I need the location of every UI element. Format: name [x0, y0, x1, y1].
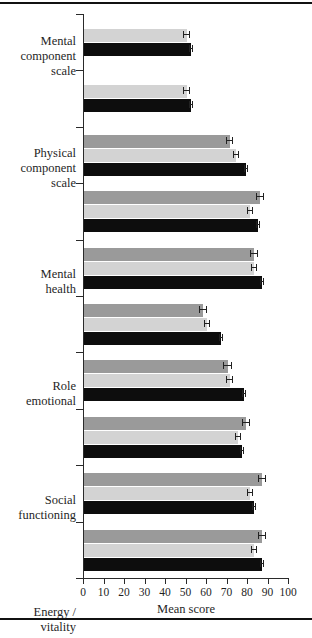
bar [84, 487, 250, 500]
bar-group: Physicalcomponentscale [0, 70, 312, 126]
bar [84, 99, 191, 112]
bar-group: Physicalfunctioning [0, 522, 312, 578]
error-bar [223, 365, 231, 366]
x-axis-tick [227, 578, 228, 584]
bar [84, 135, 230, 148]
error-bar [189, 104, 193, 105]
bar-group: Energy /vitality [0, 296, 312, 352]
bar-group: Socialfunctioning [0, 240, 312, 296]
bar [84, 388, 244, 401]
bar-group: Bodilypain [0, 409, 312, 465]
error-bar [233, 154, 239, 155]
bar [84, 205, 250, 218]
category-label-line: vitality [0, 620, 76, 635]
bar-group: Generalhealthperceptions [0, 352, 312, 408]
error-bar [251, 549, 257, 550]
bar-group: Rolephysical [0, 465, 312, 521]
bar [84, 248, 254, 261]
bar [84, 43, 191, 56]
error-bar [226, 140, 232, 141]
x-axis-tick-label: 100 [275, 586, 301, 599]
bar [84, 445, 242, 458]
error-bar [204, 323, 210, 324]
bar [84, 501, 254, 514]
bar-group: Roleemotional [0, 183, 312, 239]
bar [84, 318, 207, 331]
error-bar [235, 436, 241, 437]
error-bar [252, 506, 256, 507]
error-bar [240, 450, 244, 451]
bar [84, 262, 254, 275]
error-bar [244, 168, 248, 169]
category-label: Energy /vitality [0, 605, 76, 635]
error-bar [183, 90, 189, 91]
error-bar [242, 422, 250, 423]
bar [84, 149, 236, 162]
bar-group: Mentalcomponentscale [0, 14, 312, 70]
error-bar [189, 48, 193, 49]
error-bar [256, 196, 264, 197]
figure-sf36-mean-scores: Mean score MentalcomponentscalePhysicalc… [0, 0, 312, 638]
bar [84, 544, 254, 557]
bar [84, 530, 262, 543]
bar [84, 304, 203, 317]
category-label-line: component [0, 49, 76, 64]
error-bar [256, 224, 260, 225]
error-bar [226, 379, 232, 380]
error-bar [258, 535, 266, 536]
bar [84, 29, 187, 42]
x-axis-tick [124, 578, 125, 584]
x-axis-tick [247, 578, 248, 584]
x-axis-tick [145, 578, 146, 584]
x-axis-title: Mean score [83, 602, 289, 617]
bar [84, 473, 262, 486]
category-label-line: Energy / [0, 605, 76, 620]
error-bar [251, 267, 257, 268]
bar [84, 85, 187, 98]
x-axis-tick [186, 578, 187, 584]
x-axis-tick [268, 578, 269, 584]
x-axis-tick [83, 578, 84, 584]
x-axis-tick [165, 578, 166, 584]
error-bar [260, 281, 264, 282]
error-bar [260, 563, 264, 564]
x-axis-tick [206, 578, 207, 584]
error-bar [250, 253, 258, 254]
x-axis-tick [104, 578, 105, 584]
bar [84, 558, 262, 571]
chart-plot-area: Mean score MentalcomponentscalePhysicalc… [0, 0, 312, 638]
error-bar [247, 210, 253, 211]
bar [84, 360, 228, 373]
error-bar [258, 478, 266, 479]
error-bar [183, 34, 189, 35]
category-label-line: Mental [0, 34, 76, 49]
bar [84, 163, 246, 176]
bar [84, 191, 260, 204]
bar [84, 219, 258, 232]
bar [84, 332, 221, 345]
error-bar [242, 393, 246, 394]
bar [84, 276, 262, 289]
error-bar [199, 309, 207, 310]
bar [84, 374, 230, 387]
bar [84, 431, 238, 444]
x-axis-tick [288, 578, 289, 584]
error-bar [247, 492, 253, 493]
bar [84, 417, 246, 430]
bar-group: Mentalhealth [0, 127, 312, 183]
error-bar [219, 337, 223, 338]
